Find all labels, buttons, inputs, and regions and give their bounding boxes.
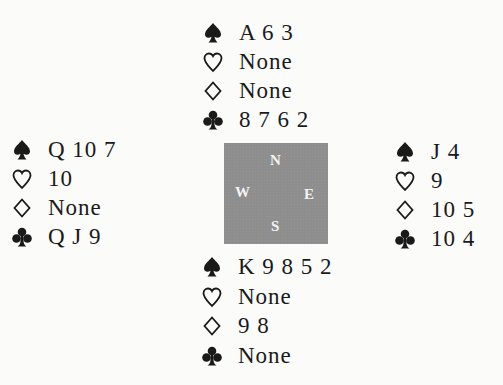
spade-icon xyxy=(200,255,224,279)
south-clubs-cards: None xyxy=(238,342,292,370)
heart-icon xyxy=(201,50,225,74)
east-spades-row: J 4 xyxy=(393,138,417,166)
spade-icon xyxy=(393,140,417,164)
east-hearts-row: 9 xyxy=(393,167,417,195)
south-diamonds-cards: 9 8 xyxy=(238,312,270,340)
north-spades-cards: A 6 3 xyxy=(239,19,294,47)
south-clubs-row: None xyxy=(200,342,224,370)
north-hearts-cards: None xyxy=(239,48,293,76)
club-icon xyxy=(10,225,34,249)
south-spades-row: K 9 8 5 2 xyxy=(200,253,224,281)
heart-icon xyxy=(200,285,224,309)
compass-west-label: W xyxy=(235,184,250,200)
heart-icon xyxy=(10,167,34,191)
north-hearts-row: None xyxy=(201,48,225,76)
compass-north-label: N xyxy=(270,152,281,168)
north-spades-row: A 6 3 xyxy=(201,19,225,47)
south-hearts-cards: None xyxy=(238,283,292,311)
west-diamonds-row: None xyxy=(10,194,34,222)
diamond-icon xyxy=(200,314,224,338)
east-diamonds-cards: 10 5 xyxy=(431,196,475,224)
west-clubs-row: Q J 9 xyxy=(10,223,34,251)
west-diamonds-cards: None xyxy=(48,194,102,222)
compass-south-label: S xyxy=(271,218,279,234)
west-clubs-cards: Q J 9 xyxy=(48,223,102,251)
spade-icon xyxy=(10,138,34,162)
west-hearts-cards: 10 xyxy=(48,165,73,193)
south-hearts-row: None xyxy=(200,283,224,311)
club-icon xyxy=(200,344,224,368)
compass-box: N W E S xyxy=(224,143,328,244)
east-clubs-row: 10 4 xyxy=(393,225,417,253)
west-spades-row: Q 10 7 xyxy=(10,136,34,164)
east-diamonds-row: 10 5 xyxy=(393,196,417,224)
club-icon xyxy=(201,108,225,132)
heart-icon xyxy=(393,169,417,193)
club-icon xyxy=(393,227,417,251)
south-diamonds-row: 9 8 xyxy=(200,312,224,340)
east-clubs-cards: 10 4 xyxy=(431,225,475,253)
north-clubs-row: 8 7 6 2 xyxy=(201,106,225,134)
south-spades-cards: K 9 8 5 2 xyxy=(238,253,333,281)
compass-east-label: E xyxy=(304,186,314,202)
east-hearts-cards: 9 xyxy=(431,167,444,195)
diamond-icon xyxy=(393,198,417,222)
west-hearts-row: 10 xyxy=(10,165,34,193)
north-clubs-cards: 8 7 6 2 xyxy=(239,106,309,134)
west-spades-cards: Q 10 7 xyxy=(48,136,117,164)
diamond-icon xyxy=(10,196,34,220)
spade-icon xyxy=(201,21,225,45)
north-diamonds-row: None xyxy=(201,77,225,105)
north-diamonds-cards: None xyxy=(239,77,293,105)
diamond-icon xyxy=(201,79,225,103)
east-spades-cards: J 4 xyxy=(431,138,460,166)
